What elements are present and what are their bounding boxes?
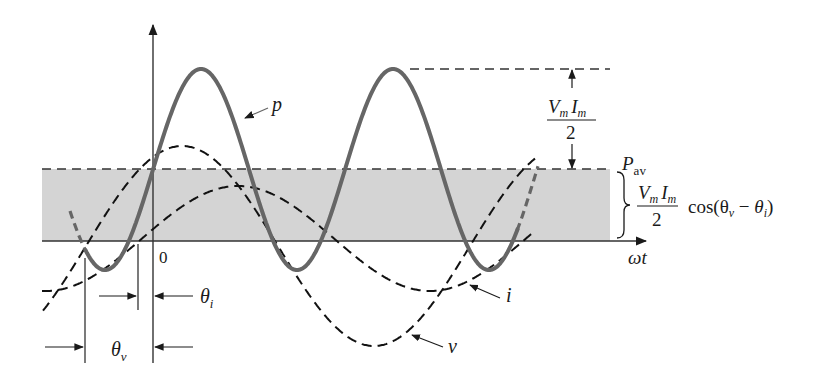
origin-label: 0 <box>159 248 168 267</box>
v-leader <box>412 335 443 347</box>
p-av-formula: VmIm 2 cos(θv − θi) <box>637 182 773 230</box>
brace <box>617 172 630 238</box>
amplitude-fraction: VmIm 2 <box>547 96 596 143</box>
svg-text:2: 2 <box>652 209 662 230</box>
svg-text:VmIm: VmIm <box>548 96 587 120</box>
p-label: p <box>270 93 282 116</box>
theta-i-label: θi <box>200 285 214 311</box>
i-leader <box>470 285 500 298</box>
p-av-label: Pav <box>621 153 646 178</box>
v-label: v <box>448 335 457 357</box>
power-waveform-diagram: VmIm 2 Pav VmIm 2 cos(θv − θi) 0 ωt p i … <box>0 0 825 388</box>
p-leader <box>245 108 268 118</box>
svg-text:cos(θv − θi): cos(θv − θi) <box>688 196 773 220</box>
theta-v-label: θv <box>111 338 127 364</box>
svg-text:2: 2 <box>566 122 576 143</box>
i-label: i <box>506 284 512 306</box>
svg-text:VmIm: VmIm <box>638 182 677 206</box>
x-axis-label: ωt <box>628 247 647 268</box>
